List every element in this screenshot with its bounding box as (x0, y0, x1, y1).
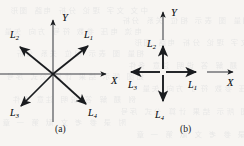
panel-a-vector-L2 (20, 47, 53, 74)
panel-b-label-L2: L2 (147, 39, 156, 49)
panel-a-y-axis-label: Y (62, 13, 68, 24)
label-base: L (88, 107, 94, 118)
label-subscript: 2 (16, 34, 19, 41)
label-subscript: 4 (161, 114, 164, 121)
panel-a-x-axis-label: X (111, 76, 117, 87)
label-base: L (10, 107, 16, 118)
panel-a-label-L4: L4 (88, 108, 97, 118)
label-subscript: 3 (134, 84, 137, 91)
panel-a-vector-L1 (53, 46, 88, 74)
panel-a-label-L1: L1 (84, 30, 93, 40)
panel-a-label-L2: L2 (10, 30, 19, 40)
panel-b-label-L3: L3 (128, 80, 137, 90)
label-subscript: 4 (94, 112, 97, 119)
panel-b-graphics (131, 12, 233, 101)
label-base: L (10, 29, 16, 40)
label-base: L (84, 29, 90, 40)
label-base: L (147, 38, 153, 49)
figure-canvas: 中文 文字 理论 分析 电路 图形 电流 电压 参数 符号 方向 矢量 相量 图… (0, 0, 244, 146)
panel-b-y-axis-label: Y (171, 8, 177, 19)
label-subscript: 1 (194, 84, 197, 91)
label-base: L (188, 79, 194, 90)
label-base: L (155, 109, 161, 120)
label-base: L (128, 79, 134, 90)
panel-b-label-L1: L1 (188, 80, 197, 90)
panel-b-caption: (b) (180, 125, 191, 135)
label-subscript: 2 (153, 43, 156, 50)
panel-b-label-L4: L4 (155, 110, 164, 120)
vector-diagram (0, 0, 244, 146)
panel-a-caption: (a) (55, 125, 66, 135)
panel-a-label-L3: L3 (10, 108, 19, 118)
panel-b-x-axis-label: X (227, 78, 233, 89)
label-subscript: 3 (16, 112, 19, 119)
panel-a-vector-L3 (21, 74, 53, 106)
label-subscript: 1 (90, 34, 93, 41)
panel-a-vector-L4 (53, 74, 86, 104)
